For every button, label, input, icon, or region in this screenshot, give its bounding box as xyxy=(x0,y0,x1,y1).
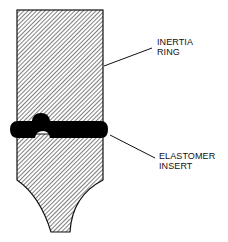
elastomer-insert-label-line2: INSERT xyxy=(159,162,215,172)
inertia-ring-leader-line xyxy=(104,48,152,66)
elastomer-insert-label: ELASTOMER INSERT xyxy=(159,152,215,171)
hub-shape xyxy=(17,134,103,232)
inertia-ring-shape xyxy=(17,10,103,126)
inertia-ring-label-line2: RING xyxy=(157,48,193,58)
elastomer-insert-leader-line xyxy=(110,135,155,158)
damper-cross-section-diagram xyxy=(0,0,228,242)
inertia-ring-label: INERTIA RING xyxy=(157,38,193,57)
